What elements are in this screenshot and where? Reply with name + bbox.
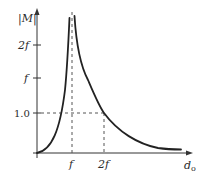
curve-left-branch — [37, 18, 70, 153]
y-tick-label-1: 1.0 — [14, 108, 30, 119]
x-axis-arrow-icon — [186, 151, 193, 156]
y-tick-label-2f: 2f — [17, 39, 31, 52]
x-tick-label-f: f — [68, 158, 75, 171]
curve-right-branch — [75, 16, 182, 150]
axes — [33, 8, 193, 158]
guide-lines — [41, 12, 104, 153]
x-tick-label-2f: 2f — [97, 158, 111, 171]
curve — [37, 16, 181, 153]
y-tick-label-f: f — [23, 72, 30, 85]
y-axis-label: |M| — [18, 12, 37, 26]
magnification-chart: |M| 2f f 1.0 f 2f do — [0, 0, 201, 182]
x-axis-label: do — [184, 159, 196, 173]
